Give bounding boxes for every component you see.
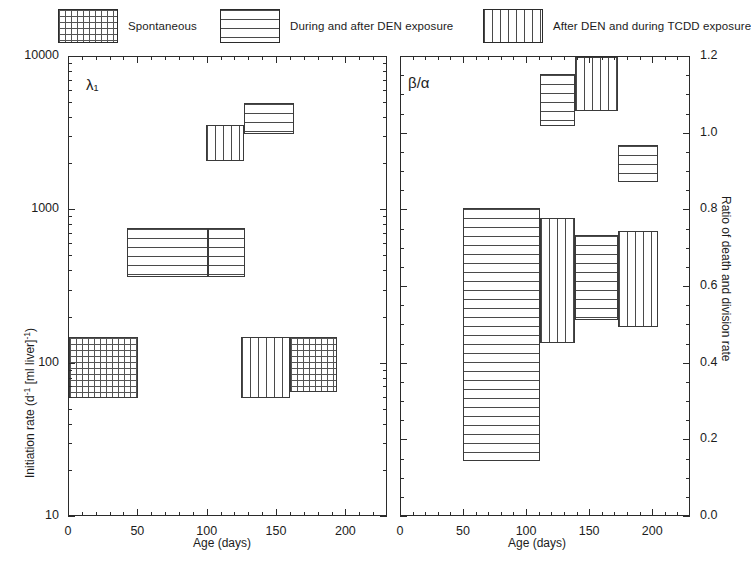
- right-xtick-minor-130: [564, 512, 565, 516]
- right-xtick-minor-30: [438, 512, 439, 516]
- right-ytick-lminor-0.85: [400, 190, 404, 191]
- data-block-den-100-150: [208, 228, 245, 277]
- left-ytick-minor-700: [68, 233, 72, 234]
- left-ytick-minor-600: [68, 243, 72, 244]
- right-panel-ylabel: Ratio of death and division rate: [719, 196, 733, 361]
- right-ytick-left-6: [400, 56, 407, 57]
- right-xtick-top-minor-20: [425, 56, 426, 60]
- right-xtick-minor-80: [501, 512, 502, 516]
- left-xtick-minor-210: [359, 512, 360, 516]
- left-yticklabel-0: 10: [45, 508, 59, 522]
- right-xtick-minor-220: [677, 512, 678, 516]
- right-yticklabel-1: 0.2: [700, 431, 717, 445]
- left-xtick-top-minor-220: [373, 56, 374, 60]
- right-ytick-lminor-0.75: [400, 229, 404, 230]
- right-yticklabel-0: 0.0: [700, 508, 717, 522]
- data-block-den-138-172: [575, 235, 618, 319]
- right-xtick-major-0: [400, 509, 401, 516]
- right-xtick-top-minor-30: [438, 56, 439, 60]
- left-yticklabel-3: 10000: [24, 48, 59, 62]
- right-xtick-top-minor-130: [564, 56, 565, 60]
- left-xtick-minor-80: [179, 512, 180, 516]
- right-xtick-top-minor-110: [539, 56, 540, 60]
- legend-label-spontaneous: Spontaneous: [128, 20, 197, 32]
- right-panel-plot-area: [400, 56, 690, 516]
- left-ytick-minor-200: [68, 317, 72, 318]
- left-ytick-minor-5000: [68, 102, 72, 103]
- right-ytick-minor-0.1: [686, 478, 690, 479]
- right-ytick-major-2: [683, 363, 690, 364]
- right-xtick-top-minor-180: [627, 56, 628, 60]
- left-xtick-minor-190: [332, 512, 333, 516]
- left-xtick-top-minor-80: [179, 56, 180, 60]
- left-xticklabel-4: 200: [335, 524, 356, 538]
- right-xtick-top-minor-80: [501, 56, 502, 60]
- left-xtick-top-minor-210: [359, 56, 360, 60]
- left-ytick-rminor-20: [383, 470, 387, 471]
- right-xtick-top-minor-170: [614, 56, 615, 60]
- left-panel-xlabel: Age (days): [193, 536, 251, 550]
- right-ytick-major-5: [683, 133, 690, 134]
- right-xtick-top-minor-120: [551, 56, 552, 60]
- legend-swatch-vertical: [483, 9, 543, 43]
- right-xtick-top-minor-10: [413, 56, 414, 60]
- right-ytick-lminor-0.7: [400, 248, 404, 249]
- legend-label-den: During and after DEN exposure: [290, 20, 453, 32]
- right-xtick-top-minor-140: [577, 56, 578, 60]
- left-ytick-rminor-3000: [383, 136, 387, 137]
- right-xtick-top-minor-60: [476, 56, 477, 60]
- legend-swatch-grid: [58, 9, 118, 43]
- left-xtick-minor-180: [318, 512, 319, 516]
- data-block-den-125-160: [244, 103, 294, 134]
- left-xtick-minor-90: [193, 512, 194, 516]
- right-xtick-minor-210: [665, 512, 666, 516]
- left-panel-ylabel: Initiation rate (d-1 [ml liver]-1): [22, 328, 37, 478]
- right-xtick-minor-70: [488, 512, 489, 516]
- left-ytick-minor-50: [68, 409, 72, 410]
- left-ytick-minor-20: [68, 470, 72, 471]
- right-ytick-minor-0.45: [686, 344, 690, 345]
- left-panel-annotation: λ₁: [86, 76, 99, 93]
- left-ytick-major-2: [68, 209, 75, 210]
- right-xtick-top-1: [463, 56, 464, 63]
- left-xtick-top-3: [276, 56, 277, 63]
- right-ytick-lminor-1.1: [400, 94, 404, 95]
- right-xticklabel-4: 200: [642, 524, 663, 538]
- right-xtick-minor-60: [476, 512, 477, 516]
- legend-label-tcdd: After DEN and during TCDD exposure: [553, 20, 751, 32]
- right-ytick-lminor-0.65: [400, 267, 404, 268]
- left-ytick-right-0: [380, 516, 387, 517]
- left-ytick-minor-800: [68, 224, 72, 225]
- left-ytick-rminor-60: [383, 397, 387, 398]
- left-xtick-major-0: [68, 509, 69, 516]
- right-ytick-minor-0.55: [686, 305, 690, 306]
- right-xtick-top-minor-160: [602, 56, 603, 60]
- right-ytick-major-3: [683, 286, 690, 287]
- left-xtick-minor-120: [234, 512, 235, 516]
- right-ytick-minor-0.95: [686, 152, 690, 153]
- right-ytick-major-0: [683, 516, 690, 517]
- legend: Spontaneous During and after DEN exposur…: [0, 6, 751, 48]
- right-xtick-top-0: [400, 56, 401, 63]
- left-ytick-rminor-2000: [383, 163, 387, 164]
- right-xtick-top-minor-70: [488, 56, 489, 60]
- left-xtick-top-minor-70: [165, 56, 166, 60]
- left-ytick-rminor-80: [383, 378, 387, 379]
- left-xtick-minor-140: [262, 512, 263, 516]
- right-xtick-minor-40: [450, 512, 451, 516]
- right-ytick-lminor-0.25: [400, 420, 404, 421]
- right-ytick-minor-0.7: [686, 248, 690, 249]
- left-ytick-rminor-5000: [383, 102, 387, 103]
- left-ytick-minor-3000: [68, 136, 72, 137]
- left-xtick-top-minor-160: [290, 56, 291, 60]
- data-block-tcdd-172-204: [618, 231, 658, 327]
- left-ytick-right-3: [380, 56, 387, 57]
- right-yticklabel-2: 0.4: [700, 355, 717, 369]
- left-ytick-rminor-900: [383, 216, 387, 217]
- right-ytick-lminor-0.45: [400, 344, 404, 345]
- right-xtick-top-minor-90: [513, 56, 514, 60]
- left-ytick-minor-300: [68, 290, 72, 291]
- right-ytick-major-1: [683, 439, 690, 440]
- left-xtick-top-minor-120: [234, 56, 235, 60]
- left-xtick-top-minor-140: [262, 56, 263, 60]
